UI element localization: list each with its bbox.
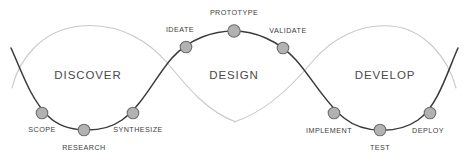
node-implement-marker[interactable] (328, 107, 340, 119)
node-ideate-marker[interactable] (180, 41, 192, 53)
node-test[interactable]: TEST (370, 124, 390, 152)
node-prototype-label: PROTOTYPE (210, 8, 258, 17)
node-validate-marker[interactable] (277, 42, 289, 54)
phase-label-discover: DISCOVER (54, 69, 121, 81)
node-scope[interactable]: SCOPE (28, 107, 55, 134)
diagram-canvas: DISCOVER DESIGN DEVELOP SCOPE RESEARCH S… (0, 0, 468, 164)
node-prototype-marker[interactable] (228, 25, 240, 37)
node-implement[interactable]: IMPLEMENT (306, 107, 352, 135)
node-deploy-label: DEPLOY (412, 126, 444, 135)
phase-label-design: DESIGN (209, 69, 259, 81)
node-ideate[interactable]: IDEATE (166, 25, 194, 53)
node-implement-label: IMPLEMENT (306, 126, 352, 135)
light-curve-right-path (234, 26, 456, 122)
phase-label-develop: DEVELOP (355, 69, 416, 81)
node-test-label: TEST (370, 143, 390, 152)
light-curve-left-path (12, 26, 236, 122)
node-research-marker[interactable] (78, 124, 90, 136)
phase-labels-group: DISCOVER DESIGN DEVELOP (54, 69, 415, 81)
node-test-marker[interactable] (374, 124, 386, 136)
node-validate-label: VALIDATE (269, 26, 306, 35)
node-validate[interactable]: VALIDATE (269, 26, 306, 54)
process-diagram: DISCOVER DESIGN DEVELOP SCOPE RESEARCH S… (0, 0, 468, 164)
node-scope-label: SCOPE (28, 125, 55, 134)
node-synthesize-label: SYNTHESIZE (113, 125, 163, 134)
node-ideate-label: IDEATE (166, 25, 194, 34)
node-synthesize-marker[interactable] (127, 107, 139, 119)
node-research-label: RESEARCH (62, 143, 106, 152)
node-scope-marker[interactable] (36, 107, 48, 119)
node-deploy-marker[interactable] (424, 107, 436, 119)
